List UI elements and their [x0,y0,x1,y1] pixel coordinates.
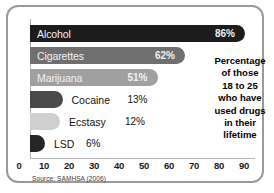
bar-value-ecstasy: 12% [125,113,145,130]
bar-value-marijuana: 51% [128,69,148,86]
bar-label-ecstasy: Ecstasy [69,113,106,130]
annotation-line-4: used drugs [209,105,271,117]
bar-label-marijuana: Marijuana [37,69,82,86]
annotation-line-6: lifetime [209,129,271,141]
bar-value-cocaine: 13% [128,91,148,108]
x-tick-80: 80 [214,160,224,171]
bar-label-alcohol: Alcohol [37,25,71,42]
bar-row: Alcohol86% [30,25,255,42]
bar-value-lsd: 6% [86,135,100,152]
annotation-line-1: of those [209,67,271,79]
bar-ecstasy[interactable] [30,113,60,130]
bar-value-alcohol: 86% [215,25,235,42]
x-axis-line [30,158,255,159]
annotation-line-0: Percentage [209,55,271,67]
x-tick-70: 70 [189,160,199,171]
annotation-line-3: who have [209,92,271,104]
x-tick-30: 30 [89,160,99,171]
bar-chart-plot-area: Alcohol86%Cigarettes62%Marijuana51%Cocai… [19,13,255,179]
bar-label-cigarettes: Cigarettes [37,47,84,64]
bar-lsd[interactable] [30,135,45,152]
bar-cocaine[interactable] [30,91,63,108]
annotation-line-2: 18 to 25 [209,80,271,92]
x-tick-90: 90 [239,160,249,171]
bar-value-cigarettes: 62% [155,47,175,64]
bar-label-lsd: LSD [54,135,74,152]
x-tick-60: 60 [164,160,174,171]
annotation-line-5: in their [209,117,271,129]
x-tick-50: 50 [139,160,149,171]
x-tick-20: 20 [64,160,74,171]
chart-annotation: Percentageof those18 to 25who haveused d… [209,55,271,142]
source-note: Source: SAMHSA (2006) [32,175,106,182]
x-tick-10: 10 [39,160,49,171]
bar-label-cocaine: Cocaine [72,91,111,108]
chart-card: Alcohol86%Cigarettes62%Marijuana51%Cocai… [6,5,264,183]
x-tick-40: 40 [114,160,124,171]
x-tick-0: 0 [16,160,21,171]
